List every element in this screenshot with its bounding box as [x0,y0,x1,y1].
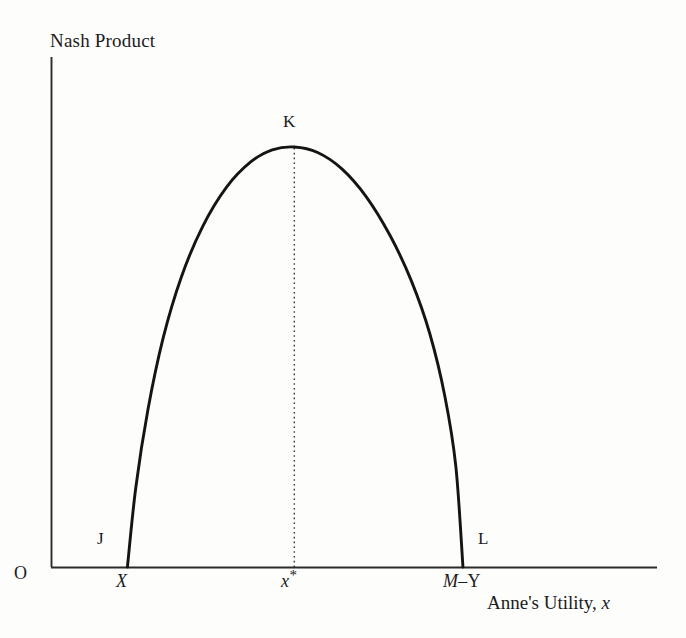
point-label-k: K [283,113,295,130]
y-axis-title: Nash Product [50,31,155,50]
x-tick-right-foot-y: Y [468,571,481,591]
x-tick-label-left-foot: X [116,572,127,590]
x-axis-title: Anne's Utility, x [487,593,610,612]
x-tick-label-right-foot: M–Y [443,572,481,590]
point-label-l: L [478,530,488,547]
point-label-j: J [97,530,104,547]
x-axis-title-variable: x [602,592,610,613]
origin-label: O [14,564,27,582]
nash-product-figure: Nash Product O J K L X x* M–Y Anne's Uti… [0,0,686,638]
x-tick-optimum-superscript: * [290,567,298,583]
x-tick-right-foot-m: M [443,571,458,591]
x-axis-title-text: Anne's Utility, [487,592,602,613]
nash-product-curve [127,147,463,567]
x-tick-optimum-base: x [281,571,289,591]
x-tick-right-foot-dash: – [458,571,468,591]
x-tick-label-optimum: x* [281,572,297,590]
